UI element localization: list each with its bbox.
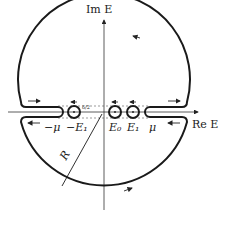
arrow-top-arc — [133, 36, 140, 38]
pole-dot-E0 — [114, 111, 116, 113]
contour-diagram — [0, 0, 226, 227]
imaginary-axis-label: Im E — [86, 4, 112, 15]
label-minus-mu: −μ — [44, 122, 60, 133]
pole-dot-E1 — [132, 111, 134, 113]
real-axis-label: Re E — [192, 119, 218, 130]
arrow-bottom-arc — [124, 188, 132, 191]
label-minus-E1: −E₁ — [66, 122, 88, 133]
label-E1: E₁ — [127, 122, 139, 133]
pole-dot-minus-E1 — [73, 111, 75, 113]
gap-label: δ/2 — [82, 105, 90, 110]
label-E0: E₀ — [109, 122, 121, 133]
label-mu: μ — [149, 122, 156, 133]
